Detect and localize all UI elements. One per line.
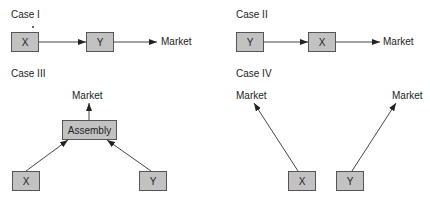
case-3-arrow-x-to-assembly xyxy=(26,140,68,171)
case-4-arrow-y-to-market xyxy=(352,103,396,171)
case-4-arrow-x-to-market xyxy=(254,103,298,171)
stray-dot xyxy=(32,26,34,28)
case-3-arrow-y-to-assembly xyxy=(107,140,151,171)
arrows-layer xyxy=(0,0,430,204)
